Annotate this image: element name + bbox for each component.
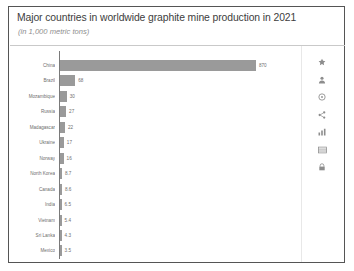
category-label: Brazil [10,74,55,88]
person-icon[interactable] [309,71,335,89]
value-label: 8.6 [65,183,71,197]
statistics-icon[interactable] [309,123,335,141]
value-label: 22 [68,121,73,135]
bar-row: India6.5 [10,198,301,212]
bar-row: Canada8.6 [10,183,301,197]
share-icon[interactable] [309,106,335,124]
value-label: 16 [67,152,72,166]
bar[interactable] [60,91,67,102]
bar-row: Mozambique30 [10,90,301,104]
category-label: India [10,198,55,212]
bar-row: Ukraine17 [10,136,301,150]
category-label: Ukraine [10,136,55,150]
bar[interactable] [60,230,62,241]
bar[interactable] [60,215,62,226]
bar[interactable] [60,245,62,256]
value-label: 68 [78,74,83,88]
bar[interactable] [60,75,75,86]
value-label: 30 [70,90,75,104]
bar-row: Sri Lanka4.3 [10,229,301,243]
table-icon[interactable] [309,141,335,159]
category-label: Madagascar [10,121,55,135]
value-label: 5.4 [65,214,71,228]
value-label: 3.5 [65,244,71,258]
bar[interactable] [60,137,64,148]
bar[interactable] [60,184,62,195]
bar-row: Russia27 [10,105,301,119]
category-label: Mozambique [10,90,55,104]
value-label: 8.7 [65,167,71,181]
bar-row: Norway16 [10,152,301,166]
category-label: Sri Lanka [10,229,55,243]
bar[interactable] [60,106,66,117]
bar[interactable] [60,122,65,133]
lock-icon[interactable] [309,158,335,176]
info-circle-icon[interactable] [309,88,335,106]
category-label: Russia [10,105,55,119]
plot-right-edge [301,46,302,262]
bar[interactable] [60,60,256,71]
bar[interactable] [60,168,62,179]
category-label: North Korea [10,167,55,181]
bar[interactable] [60,153,64,164]
bar-row: North Korea8.7 [10,167,301,181]
bar-row: Mexico3.5 [10,244,301,258]
chart-title: Major countries in worldwide graphite mi… [17,12,337,23]
icon-rail [309,53,335,176]
bar-row: Brazil68 [10,74,301,88]
value-label: 17 [67,136,72,150]
chart-card: Major countries in worldwide graphite mi… [8,6,345,263]
category-label: Norway [10,152,55,166]
star-icon[interactable] [309,53,335,71]
value-label: 6.5 [65,198,71,212]
bar-row: China870 [10,59,301,73]
category-label: Canada [10,183,55,197]
value-label: 27 [69,105,74,119]
bar-row: Madagascar22 [10,121,301,135]
plot-area: China870Brazil68Mozambique30Russia27Mada… [10,46,301,262]
chart-subtitle: (in 1,000 metric tons) [18,27,89,36]
category-label: China [10,59,55,73]
value-label: 4.3 [65,229,71,243]
bar[interactable] [60,199,62,210]
value-label: 870 [259,59,267,73]
bar-row: Vietnam5.4 [10,214,301,228]
category-label: Vietnam [10,214,55,228]
category-label: Mexico [10,244,55,258]
